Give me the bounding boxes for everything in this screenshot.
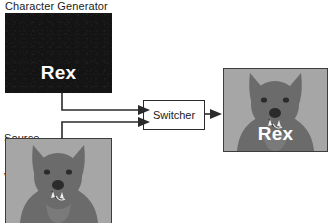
character-generator-screen: Rex [5,13,112,93]
arrowhead-icon [210,109,222,119]
switcher-label: Switcher [153,109,195,121]
character-generator-screen-text: Rex [5,62,112,84]
source-vcr-image [5,138,112,223]
program-output-overlay-text: Rex [224,123,327,145]
wire-character-generator-to-switcher [62,93,138,110]
diagram-canvas: Character Generator Rex Source VCR [0,0,329,223]
program-output-image: Rex [223,68,328,152]
dog-illustration-icon [6,139,111,223]
wire-source-vcr-to-switcher [62,122,138,139]
character-generator-label: Character Generator [5,0,108,13]
switcher-box[interactable]: Switcher [143,100,205,130]
